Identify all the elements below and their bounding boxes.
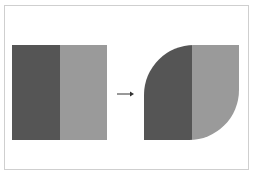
after-dark-half (144, 45, 192, 140)
after-rounded-shape (144, 45, 239, 140)
after-light-half (192, 45, 240, 140)
before-dark-half (12, 45, 60, 140)
before-light-half (60, 45, 108, 140)
before-square (12, 45, 107, 140)
right-arrow-icon (117, 89, 135, 99)
